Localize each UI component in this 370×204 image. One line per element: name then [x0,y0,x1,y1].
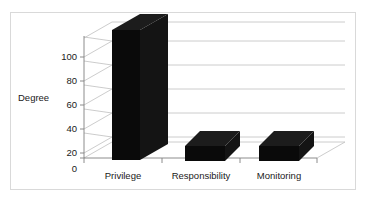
depth-line-40 [84,109,112,113]
chart-container: 100 80 60 40 20 0 Degree [0,0,370,204]
bar-privilege-front [112,30,140,160]
depth-lines-group [84,22,112,158]
y-tick-label-20: 20 [66,147,77,158]
y-tick-label-60: 60 [66,99,77,110]
cat-label-responsibility: Responsibility [172,170,231,181]
depth-line-0 [84,142,112,158]
y-axis [80,36,84,158]
floor-right-edge [317,142,345,158]
bar-monitoring-front [259,146,299,161]
bar-responsibility-front [185,146,225,161]
cat-label-monitoring: Monitoring [257,170,301,181]
y-axis-title: Degree [18,92,49,103]
y-tick-label-0: 0 [72,163,77,174]
depth-line-80 [84,61,112,65]
depth-edge-100 [84,41,112,57]
bar-monitoring[interactable] [259,131,314,161]
depth-edge-60 [84,89,112,105]
y-tick-label-100: 100 [61,51,77,62]
depth-line-100 [84,37,112,41]
depth-edge-80 [84,65,112,81]
bar-responsibility[interactable] [185,131,240,161]
bar-privilege[interactable] [112,14,168,160]
depth-edge-40 [84,113,112,129]
bar-privilege-side [140,14,168,160]
category-labels: Privilege Responsibility Monitoring [105,170,301,181]
depth-line-top [84,22,112,38]
y-tick-label-80: 80 [66,75,77,86]
depth-line-60 [84,85,112,89]
chart-svg: 100 80 60 40 20 0 Degree [0,0,370,204]
y-tick-labels: 100 80 60 40 20 0 [61,51,77,174]
y-tick-label-40: 40 [66,123,77,134]
cat-label-privilege: Privilege [105,170,141,181]
depth-line-20 [84,133,112,137]
depth-edge-20 [84,137,112,153]
